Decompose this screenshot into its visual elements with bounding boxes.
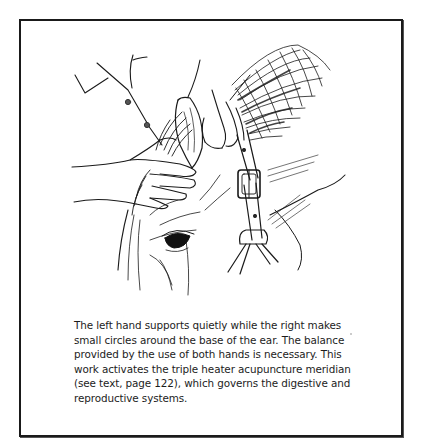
scan-speck xyxy=(350,333,352,335)
caption-line: small circles around the base of the ear… xyxy=(74,333,364,348)
caption-line: work activates the triple heater acupunc… xyxy=(74,362,364,377)
figure-caption: The left hand supports quietly while the… xyxy=(74,318,364,406)
left-hand xyxy=(72,138,196,209)
caption-line: reproductive systems. xyxy=(74,391,364,406)
horse-jaw xyxy=(268,155,345,270)
caption-line: The left hand supports quietly while the… xyxy=(74,318,364,333)
button-icon xyxy=(144,122,149,127)
caption-line: (see text, page 122), which governs the … xyxy=(74,376,364,391)
halter-strap xyxy=(228,130,278,274)
button-icon xyxy=(125,99,130,104)
horse-ear-illustration xyxy=(0,0,424,320)
caption-line: provided by the use of both hands is nec… xyxy=(74,347,364,362)
horse-mane xyxy=(230,45,330,140)
horse-eye xyxy=(162,230,194,251)
